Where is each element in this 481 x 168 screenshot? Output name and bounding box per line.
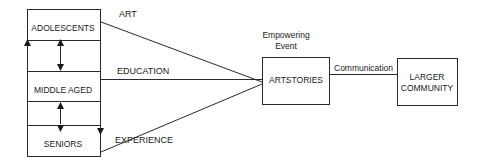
diagram-canvas: ADOLESCENTS MIDDLE AGED SENIORS ART EDUC… [0,0,481,168]
connector-label-experience: EXPERIENCE [115,135,173,145]
event-label-line2: Event [275,41,297,51]
connector-label-art: ART [119,9,137,19]
group-label-adolescents: ADOLESCENTS [31,23,95,33]
arrow-down-icon [57,64,64,71]
larger-community-box [398,59,458,106]
arrow-up-icon [57,102,64,109]
larger-community-label-line1: LARGER [410,72,445,82]
larger-community-label-line2: COMMUNITY [401,83,454,93]
connector-label-education: EDUCATION [117,66,169,76]
group-label-seniors: SENIORS [44,139,83,149]
communication-label: Communication [334,63,393,73]
event-label-line1: Empowering [262,30,310,40]
group-label-middle-aged: MIDDLE AGED [34,85,92,95]
arrow-down-icon [57,125,64,132]
arrow-down-icon [97,128,104,135]
artstories-label: ARTSTORIES [269,75,323,85]
